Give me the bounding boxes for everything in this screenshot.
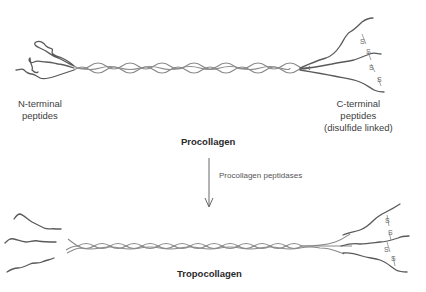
n-terminal-peptides bbox=[16, 41, 74, 78]
disulfide-s: S bbox=[369, 64, 374, 71]
cleaved-c-terminal-peptides: S S S S bbox=[341, 204, 409, 272]
disulfide-s: S bbox=[391, 255, 396, 262]
disulfide-s: S bbox=[360, 38, 365, 45]
procollagen-title: Procollagen bbox=[181, 136, 235, 147]
c-terminal-label-line1: C-terminal bbox=[324, 98, 393, 110]
disulfide-s: S bbox=[388, 229, 393, 236]
c-terminal-label: C-terminal peptides (disulfide linked) bbox=[324, 98, 393, 134]
disulfide-s: S bbox=[385, 217, 390, 224]
procollagen-molecule: S S S S bbox=[16, 18, 384, 92]
n-terminal-label-line2: peptides bbox=[18, 110, 62, 122]
disulfide-bonds-procollagen: S S S S bbox=[360, 34, 382, 86]
n-terminal-label-line1: N-terminal bbox=[18, 98, 62, 110]
c-terminal-peptides: S S S S bbox=[300, 18, 384, 92]
c-terminal-label-line2: peptides bbox=[324, 110, 393, 122]
enzyme-label: Procollagen peptidases bbox=[219, 171, 302, 180]
disulfide-s: S bbox=[377, 76, 382, 83]
tropocollagen-triple-helix bbox=[66, 234, 352, 254]
procollagen-triple-helix bbox=[74, 63, 310, 73]
n-terminal-label: N-terminal peptides bbox=[18, 98, 62, 122]
conversion-arrow bbox=[205, 158, 213, 207]
cleaved-n-terminal-peptides bbox=[5, 214, 61, 272]
tropocollagen-molecule: S S S S bbox=[5, 204, 409, 272]
tropocollagen-title: Tropocollagen bbox=[177, 268, 242, 279]
c-terminal-label-line3: (disulfide linked) bbox=[324, 122, 393, 134]
disulfide-s: S bbox=[366, 48, 371, 55]
disulfide-s: S bbox=[384, 246, 389, 253]
